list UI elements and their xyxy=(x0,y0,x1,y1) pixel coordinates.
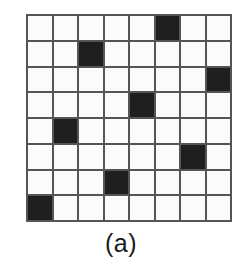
grid-cell-filled xyxy=(181,145,205,169)
grid-cell-empty xyxy=(130,16,154,40)
grid-cell-empty xyxy=(79,145,103,169)
grid-cell-empty xyxy=(207,145,231,169)
figure-caption: (a) xyxy=(0,228,242,258)
grid-cell-empty xyxy=(28,16,52,40)
grid-cell-empty xyxy=(130,171,154,195)
grid-cell-filled xyxy=(28,196,52,220)
grid-cell-empty xyxy=(181,16,205,40)
figure-panel: (a) xyxy=(0,0,242,262)
grid-cell-empty xyxy=(28,171,52,195)
grid-cell-empty xyxy=(181,93,205,117)
grid-cell-empty xyxy=(105,42,129,66)
grid-cell-filled xyxy=(79,42,103,66)
grid-cell-empty xyxy=(207,196,231,220)
grid-cell-empty xyxy=(105,119,129,143)
grid-cell-empty xyxy=(105,196,129,220)
grid-cell-empty xyxy=(54,196,78,220)
grid-cell-empty xyxy=(28,93,52,117)
grid-cell-empty xyxy=(181,42,205,66)
grid-cell-filled xyxy=(105,171,129,195)
grid-cell-empty xyxy=(181,68,205,92)
grid-cell-filled xyxy=(54,119,78,143)
grid-cell-empty xyxy=(156,119,180,143)
grid-cell-empty xyxy=(28,119,52,143)
grid-cell-empty xyxy=(181,196,205,220)
grid-cell-empty xyxy=(79,16,103,40)
grid-cells-container xyxy=(26,14,232,222)
grid-cell-empty xyxy=(79,119,103,143)
grid-cell-empty xyxy=(207,16,231,40)
grid-cell-empty xyxy=(130,42,154,66)
grid-cell-empty xyxy=(54,171,78,195)
grid-cell-empty xyxy=(156,68,180,92)
grid-cell-filled xyxy=(156,16,180,40)
grid-cell-empty xyxy=(130,196,154,220)
grid-cell-empty xyxy=(79,196,103,220)
grid-cell-empty xyxy=(207,171,231,195)
grid-cell-empty xyxy=(156,93,180,117)
grid-cell-empty xyxy=(207,42,231,66)
grid-cell-empty xyxy=(130,68,154,92)
grid-cell-empty xyxy=(156,42,180,66)
grid-cell-empty xyxy=(105,16,129,40)
grid-cell-empty xyxy=(105,93,129,117)
grid-cell-empty xyxy=(54,93,78,117)
grid-cell-empty xyxy=(130,119,154,143)
grid-cell-empty xyxy=(54,16,78,40)
grid-cell-empty xyxy=(207,93,231,117)
grid-cell-empty xyxy=(105,68,129,92)
grid-cell-empty xyxy=(79,93,103,117)
grid-cell-empty xyxy=(54,42,78,66)
grid-cell-empty xyxy=(79,68,103,92)
grid-cell-empty xyxy=(79,171,103,195)
grid-cell-empty xyxy=(54,145,78,169)
grid-cell-empty xyxy=(28,42,52,66)
grid-cell-empty xyxy=(105,145,129,169)
grid-cell-empty xyxy=(28,68,52,92)
grid-cell-empty xyxy=(54,68,78,92)
grid-cell-filled xyxy=(207,68,231,92)
grid-cell-empty xyxy=(181,119,205,143)
grid-cell-empty xyxy=(130,145,154,169)
permutation-matrix-grid xyxy=(26,14,232,222)
grid-cell-empty xyxy=(156,196,180,220)
grid-cell-empty xyxy=(28,145,52,169)
grid-cell-empty xyxy=(181,171,205,195)
grid-cell-empty xyxy=(156,171,180,195)
grid-cell-empty xyxy=(156,145,180,169)
grid-cell-empty xyxy=(207,119,231,143)
grid-cell-filled xyxy=(130,93,154,117)
